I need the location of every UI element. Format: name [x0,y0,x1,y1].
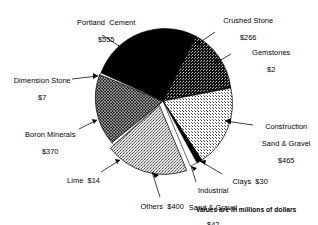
label-portland-cement: Portland Cement $555 [46,10,158,53]
label-dimension-value: $7 [38,93,46,102]
label-boron-value: $370 [42,147,59,156]
label-industrial-line1: Industrial [198,186,229,195]
label-boron-name: Boron Minerals [25,130,75,139]
cut-off-caption [14,218,264,223]
label-lime: Lime $14 [36,168,100,194]
label-portland-cement-value: $555 [98,35,115,44]
label-lime-text: Lime $14 [67,176,100,185]
label-gemstones: Gemstones $2 [228,40,306,83]
label-construction-value: $465 [278,156,295,165]
label-portland-cement-name: Portland Cement [77,18,135,27]
pie-chart-figure: Portland Cement $555 Crushed Stone $266 … [0,0,318,225]
label-construction-sand-gravel: Construction Sand & Gravel $465 [248,114,316,174]
label-gemstones-name: Gemstones [252,48,290,57]
label-dimension-stone: Dimension Stone $7 [2,68,74,111]
label-gemstones-value: $2 [267,65,275,74]
units-note: Values are in millions of dollars [196,206,296,213]
label-others: Others $400 [115,194,201,220]
label-dimension-name: Dimension Stone [14,76,71,85]
label-construction-line1: Construction [265,122,307,131]
label-boron-minerals: Boron Minerals $370 [10,122,82,165]
label-construction-line2: Sand & Gravel [262,139,311,148]
label-others-text: Others $400 [141,202,184,211]
label-crushed-stone-name: Crushed Stone [223,16,273,25]
